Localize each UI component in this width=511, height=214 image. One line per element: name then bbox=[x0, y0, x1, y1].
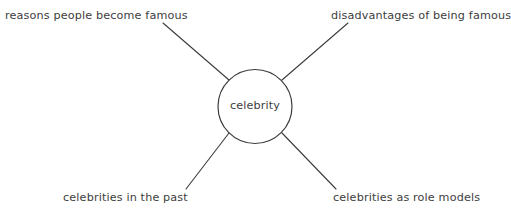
center-node-label: celebrity bbox=[218, 99, 292, 112]
branch-line-top-right bbox=[282, 23, 348, 80]
branch-label-top-left: reasons people become famous bbox=[5, 9, 188, 23]
branch-label-bottom-left: celebrities in the past bbox=[63, 191, 188, 205]
mind-map-diagram: celebrity reasons people become famous d… bbox=[0, 0, 511, 214]
branch-line-bottom-right bbox=[282, 133, 336, 189]
branch-line-bottom-left bbox=[186, 133, 229, 189]
branch-label-top-right: disadvantages of being famous bbox=[331, 9, 511, 23]
branch-line-top-left bbox=[163, 23, 229, 80]
branch-label-bottom-right: celebrities as role models bbox=[333, 191, 480, 205]
